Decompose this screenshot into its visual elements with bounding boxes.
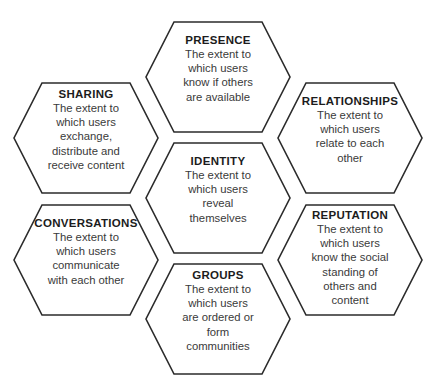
cell-line: which users [185, 182, 251, 196]
cell-line: are ordered or [182, 310, 254, 324]
cell-line: receive content [48, 158, 125, 172]
cell-line: The extent to [185, 168, 251, 182]
cell-line: which users [48, 244, 125, 258]
hexagon-cell-conversations: CONVERSATIONS The extent to which users … [22, 216, 150, 287]
cell-line: which users [183, 61, 253, 75]
cell-line: which users [182, 296, 254, 310]
cell-line: know if others [183, 75, 253, 89]
cell-body-groups: The extent to which users are ordered or… [182, 282, 254, 353]
hexagon-cell-identity: IDENTITY The extent to which users revea… [156, 154, 280, 225]
cell-line: distribute and [48, 144, 125, 158]
cell-line: The extent to [183, 47, 253, 61]
cell-line: exchange, [48, 129, 125, 143]
cell-body-presence: The extent to which users know if others… [183, 47, 253, 104]
cell-line: others and [311, 279, 388, 293]
cell-line: relate to each [316, 136, 384, 150]
cell-title-presence: PRESENCE [185, 33, 251, 47]
cell-line: The extent to [48, 230, 125, 244]
cell-line: standing of [311, 265, 388, 279]
cell-body-sharing: The extent to which users exchange, dist… [48, 101, 125, 172]
cell-line: other [316, 151, 384, 165]
cell-line: content [311, 293, 388, 307]
cell-title-sharing: SHARING [58, 87, 113, 101]
cell-line: The extent to [182, 282, 254, 296]
cell-line: The extent to [311, 222, 388, 236]
cell-line: themselves [185, 211, 251, 225]
cell-title-conversations: CONVERSATIONS [34, 216, 137, 230]
cell-body-relationships: The extent to which users relate to each… [316, 108, 384, 165]
cell-line: form [182, 325, 254, 339]
cell-title-groups: GROUPS [192, 268, 244, 282]
cell-line: which users [48, 115, 125, 129]
cell-body-reputation: The extent to which users know the socia… [311, 222, 388, 307]
hexagon-cell-relationships: RELATIONSHIPS The extent to which users … [288, 94, 412, 165]
cell-line: with each other [48, 273, 125, 287]
cell-body-identity: The extent to which users reveal themsel… [185, 168, 251, 225]
honeycomb-diagram: PRESENCE The extent to which users know … [0, 0, 437, 388]
cell-line: The extent to [48, 101, 125, 115]
cell-title-reputation: REPUTATION [312, 208, 388, 222]
cell-line: communities [182, 339, 254, 353]
cell-line: reveal [185, 196, 251, 210]
cell-line: communicate [48, 258, 125, 272]
hexagon-cell-presence: PRESENCE The extent to which users know … [156, 33, 280, 104]
cell-line: which users [316, 122, 384, 136]
cell-title-identity: IDENTITY [191, 154, 246, 168]
hexagon-cell-groups: GROUPS The extent to which users are ord… [156, 268, 280, 353]
cell-body-conversations: The extent to which users communicate wi… [48, 230, 125, 287]
hexagon-cell-sharing: SHARING The extent to which users exchan… [24, 87, 148, 172]
cell-line: know the social [311, 250, 388, 264]
cell-line: The extent to [316, 108, 384, 122]
cell-line: are available [183, 90, 253, 104]
hexagon-cell-reputation: REPUTATION The extent to which users kno… [288, 208, 412, 307]
cell-line: which users [311, 236, 388, 250]
cell-title-relationships: RELATIONSHIPS [302, 94, 398, 108]
